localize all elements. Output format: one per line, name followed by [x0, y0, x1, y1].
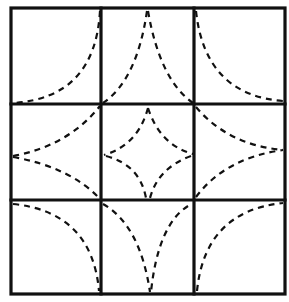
grid-lines	[11, 8, 285, 294]
dashed-curve-center-top-left	[104, 108, 148, 155]
dashed-curve-top-middle-left	[103, 11, 147, 103]
dashed-curve-middle-left-lower	[13, 157, 100, 199]
quilt-grid-diagram	[0, 0, 289, 302]
dashed-curve-middle-left-upper	[13, 106, 100, 156]
outer-border	[11, 8, 285, 294]
dashed-curve-center-bottom-right	[150, 156, 191, 198]
dashed-curve-top-middle-right	[148, 11, 193, 103]
dashed-curve-middle-right-lower	[196, 150, 283, 197]
dashed-curve-top-left	[13, 11, 100, 103]
dashed-curve-center-bottom-left	[106, 156, 146, 198]
dashed-curve-center-top-right	[148, 108, 193, 154]
dashed-curve-top-right	[196, 11, 283, 101]
dashed-curve-bottom-middle-left	[103, 204, 150, 292]
dashed-curves	[13, 11, 283, 292]
dashed-curve-bottom-left	[13, 204, 99, 291]
dashed-curve-bottom-middle-right	[151, 206, 188, 292]
dashed-curve-middle-right-upper	[196, 107, 283, 150]
dashed-curve-bottom-right	[197, 203, 283, 291]
